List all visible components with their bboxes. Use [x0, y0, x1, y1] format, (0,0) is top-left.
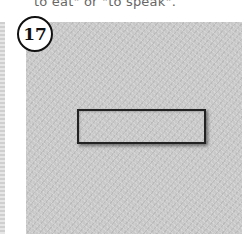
previous-panel-edge [0, 22, 5, 234]
step-number-badge: 17 [17, 16, 53, 52]
rectangle-outline [77, 109, 206, 144]
caption-text: to eat" or "to speak". [34, 0, 176, 9]
